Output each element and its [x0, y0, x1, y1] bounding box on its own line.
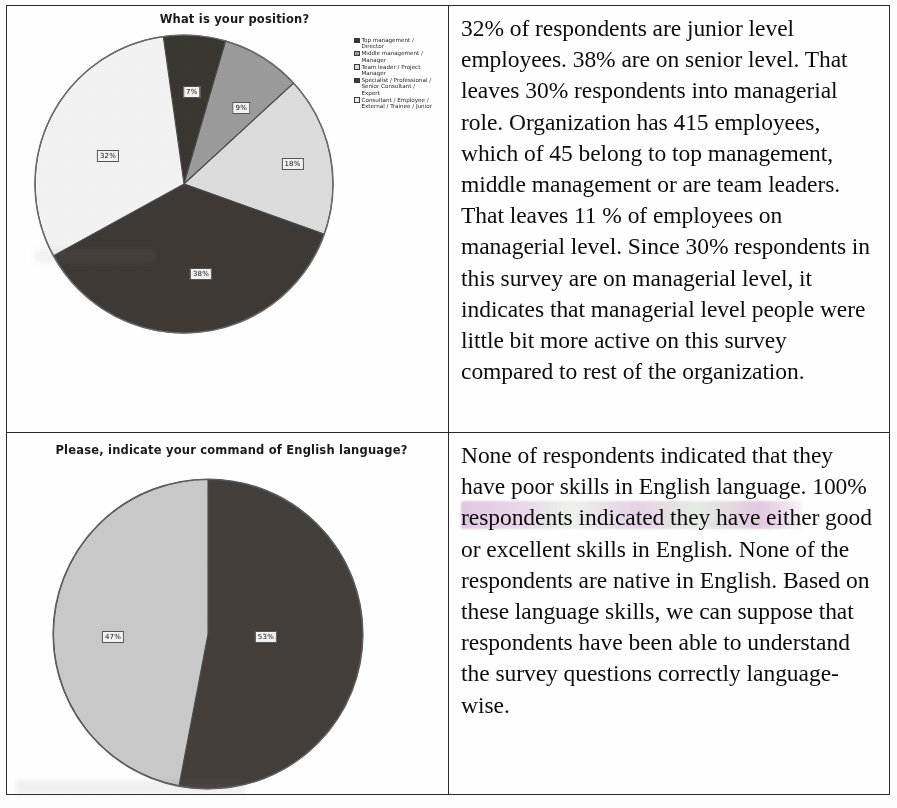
- legend-item-label: Consultant / Employee / External / Train…: [362, 97, 432, 110]
- english-commentary-text: None of respondents indicated that they …: [461, 440, 877, 721]
- position-slice-label-middle-management: 9%: [233, 102, 251, 114]
- scanned-page: What is your position? 7% 9% 18% 38% 32%…: [0, 0, 897, 808]
- legend-swatch-icon: [354, 38, 360, 44]
- position-chart-cell: What is your position? 7% 9% 18% 38% 32%…: [7, 6, 449, 433]
- position-legend-item: Middle management / Manager: [354, 50, 449, 63]
- legend-item-label: Top management / Director: [362, 37, 414, 50]
- position-legend-item: Consultant / Employee / External / Train…: [354, 97, 449, 110]
- english-commentary-cell: None of respondents indicated that they …: [449, 433, 889, 794]
- english-chart-cell: Please, indicate your command of English…: [7, 433, 449, 794]
- position-chart-legend: Top management / DirectorMiddle manageme…: [354, 37, 449, 110]
- legend-item-label: Middle management / Manager: [362, 50, 423, 63]
- legend-swatch-icon: [354, 78, 360, 84]
- position-commentary-cell: 32% of respondents are junior level empl…: [449, 6, 889, 433]
- english-slice-label-good: 53%: [255, 631, 277, 643]
- legend-swatch-icon: [354, 97, 360, 103]
- position-slice-label-consultant: 32%: [97, 150, 119, 162]
- legend-item-label: Team leader / Project Manager: [362, 64, 421, 77]
- english-slice-label-excellent: 47%: [102, 631, 124, 643]
- position-slice-label-top-management: 7%: [183, 86, 201, 98]
- position-slice-label-team-leader: 18%: [281, 158, 303, 170]
- english-pie-chart: 53% 47%: [47, 473, 369, 794]
- position-chart-title: What is your position?: [7, 12, 448, 26]
- position-slice-label-specialist: 38%: [190, 268, 212, 280]
- legend-swatch-icon: [354, 64, 360, 70]
- legend-swatch-icon: [354, 51, 360, 57]
- english-chart-title: Please, indicate your command of English…: [7, 443, 448, 457]
- position-legend-item: Team leader / Project Manager: [354, 64, 449, 77]
- position-pie-svg: [29, 28, 339, 340]
- position-pie-chart: 7% 9% 18% 38% 32%: [29, 28, 339, 340]
- position-legend-item: Top management / Director: [354, 37, 449, 50]
- english-pie-slice: [53, 479, 208, 785]
- legend-item-label: Specialist / Professional / Senior Consu…: [362, 77, 432, 96]
- results-table: What is your position? 7% 9% 18% 38% 32%…: [6, 5, 890, 795]
- position-commentary-text: 32% of respondents are junior level empl…: [461, 13, 877, 387]
- english-pie-svg: [47, 473, 369, 794]
- position-legend-item: Specialist / Professional / Senior Consu…: [354, 77, 449, 96]
